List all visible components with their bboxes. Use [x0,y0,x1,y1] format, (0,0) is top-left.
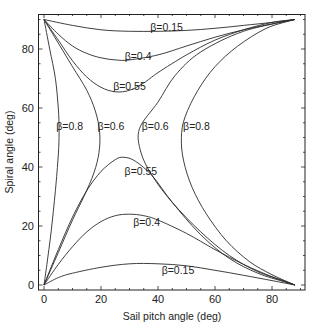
curve-line [138,20,295,286]
x-tick-label: 40 [152,293,164,305]
chart: β=0.15β=0.4β=0.55β=0.8β=0.6β=0.6β=0.8β=0… [0,0,317,333]
y-tick-label: 20 [22,220,34,232]
y-tick-label: 0 [28,279,34,291]
curve-label: β=0.15 [162,264,195,276]
x-axis-label: Sail pitch angle (deg) [123,310,222,322]
x-tick-labels: 020406080 [41,293,278,305]
curve-label: β=0.55 [125,165,158,177]
curve-label: β=0.4 [125,50,152,62]
curve-label: β=0.6 [142,120,169,132]
x-tick-label: 0 [41,293,47,305]
x-tick-label: 80 [266,293,278,305]
curve-label: β=0.6 [98,120,125,132]
curve-line [44,20,59,286]
y-tick-label: 40 [22,161,34,173]
curves [44,20,295,286]
y-axis-label: Spiral angle (deg) [3,111,15,194]
y-tick-labels: 020406080 [22,43,34,291]
curve-label: β=0.55 [113,80,146,92]
curve-label: β=0.4 [133,216,160,228]
curve-line [44,20,100,286]
y-tick-label: 80 [22,43,34,55]
plot-frame [39,15,306,291]
curve-label: β=0.8 [183,120,210,132]
x-tick-label: 60 [209,293,221,305]
x-tick-label: 20 [95,293,107,305]
curve-label: β=0.15 [150,21,183,33]
curve-labels: β=0.15β=0.4β=0.55β=0.8β=0.6β=0.6β=0.8β=0… [56,21,210,276]
axis-ticks [39,14,306,290]
curve-line [181,20,294,286]
y-tick-label: 60 [22,102,34,114]
curve-label: β=0.8 [56,120,83,132]
